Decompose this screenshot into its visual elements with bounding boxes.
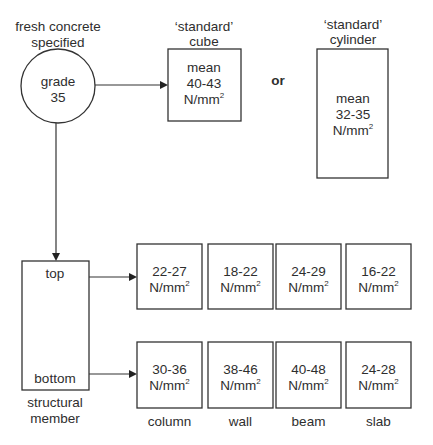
member-type-label-wall: wall [228,414,252,429]
cube-unit-base: N/mm [184,92,220,107]
member-type-label-column: column [148,414,192,429]
slab-top-unit: N/mm2 [358,279,399,295]
unit-sup: 2 [256,279,261,288]
slab-bottom-range: 24-28 [361,362,396,377]
unit-base: N/mm [358,378,394,393]
or-connector: or [271,73,285,88]
cylinder-caption-line1: ‘standard’ [324,17,383,32]
unit-sup: 2 [185,377,190,386]
wall-bottom-unit: N/mm2 [220,377,261,393]
cube-unit: N/mm2 [184,91,225,107]
beam-bottom-unit: N/mm2 [288,377,329,393]
cylinder-strength-range: 32-35 [336,107,371,122]
beam-bottom-range: 40-48 [291,362,326,377]
grade-label: grade [41,74,76,89]
column-top-unit: N/mm2 [149,279,190,295]
cylinder-unit-sup: 2 [369,122,374,131]
unit-base: N/mm [149,378,185,393]
arrow-to-member-head [52,253,60,261]
specified-caption-line1: fresh concrete [15,19,101,34]
column-bottom-unit: N/mm2 [149,377,190,393]
unit-base: N/mm [149,280,185,295]
cube-caption-line1: ‘standard’ [175,19,234,34]
arrow-top-row-head [129,273,137,281]
slab-bottom-unit: N/mm2 [358,377,399,393]
unit-base: N/mm [220,280,256,295]
cube-unit-sup: 2 [220,91,225,100]
member-caption-line1: structural [27,395,83,410]
arrow-bottom-row-head [129,370,137,378]
beam-top-unit: N/mm2 [288,279,329,295]
cube-strength-range: 40-43 [187,76,222,91]
unit-sup: 2 [324,377,329,386]
member-type-label-slab: slab [366,414,391,429]
cube-mean-label: mean [187,60,221,75]
specified-caption-line2: specified [31,35,84,50]
unit-base: N/mm [288,280,324,295]
cylinder-caption-line2: cylinder [330,32,377,47]
unit-sup: 2 [394,377,399,386]
unit-base: N/mm [358,280,394,295]
cylinder-mean-label: mean [336,91,370,106]
arrow-to-cube-head [160,81,168,89]
cube-caption-line2: cube [189,34,218,49]
unit-base: N/mm [220,378,256,393]
unit-sup: 2 [256,377,261,386]
member-caption-line2: member [30,411,80,426]
member-strength-grid: 22-27N/mm230-36N/mm2column18-22N/mm238-4… [137,244,411,429]
unit-sup: 2 [394,279,399,288]
unit-sup: 2 [185,279,190,288]
wall-bottom-range: 38-46 [223,362,258,377]
column-bottom-range: 30-36 [152,362,187,377]
cylinder-unit-base: N/mm [333,123,369,138]
unit-base: N/mm [288,378,324,393]
wall-top-range: 18-22 [223,264,258,279]
column-top-range: 22-27 [152,264,187,279]
member-type-label-beam: beam [292,414,326,429]
beam-top-range: 24-29 [291,264,326,279]
concrete-strength-diagram: fresh concrete specified grade 35 ‘stand… [0,0,433,445]
member-bottom-label: bottom [34,371,75,386]
grade-value: 35 [50,90,65,105]
member-top-label: top [46,266,65,281]
slab-top-range: 16-22 [361,264,396,279]
unit-sup: 2 [324,279,329,288]
cylinder-unit: N/mm2 [333,122,374,138]
wall-top-unit: N/mm2 [220,279,261,295]
